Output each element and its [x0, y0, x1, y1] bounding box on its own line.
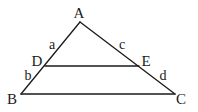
vertex-label-b: B	[7, 91, 17, 107]
side-label-a: a	[49, 37, 56, 52]
segment-ac	[80, 22, 175, 94]
side-label-b: b	[25, 68, 32, 83]
side-label-c: c	[119, 37, 125, 52]
vertex-label-a: A	[74, 5, 85, 21]
segment-ab	[21, 22, 80, 94]
vertex-label-c: C	[176, 91, 186, 107]
vertex-label-e: E	[141, 53, 150, 69]
side-label-d: d	[160, 68, 167, 83]
triangle-diagram: A B C D E a b c d	[0, 0, 198, 112]
vertex-label-d: D	[32, 53, 43, 69]
